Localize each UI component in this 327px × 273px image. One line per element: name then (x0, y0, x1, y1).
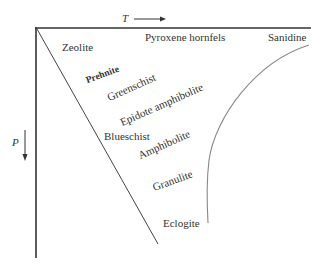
facies-eclogite: Eclogite (163, 218, 200, 229)
facies-zeolite: Zeolite (62, 42, 93, 53)
pressure-axis-label: P (12, 137, 19, 148)
melting-curve (207, 45, 309, 223)
facies-sanidine: Sanidine (268, 32, 307, 43)
temperature-arrow-icon (134, 17, 166, 22)
temperature-axis-label: T (122, 13, 128, 24)
facies-pyroxene-hornfels: Pyroxene hornfels (145, 32, 225, 43)
facies-blueschist: Blueschist (104, 131, 150, 142)
pressure-arrow-icon (23, 130, 28, 161)
